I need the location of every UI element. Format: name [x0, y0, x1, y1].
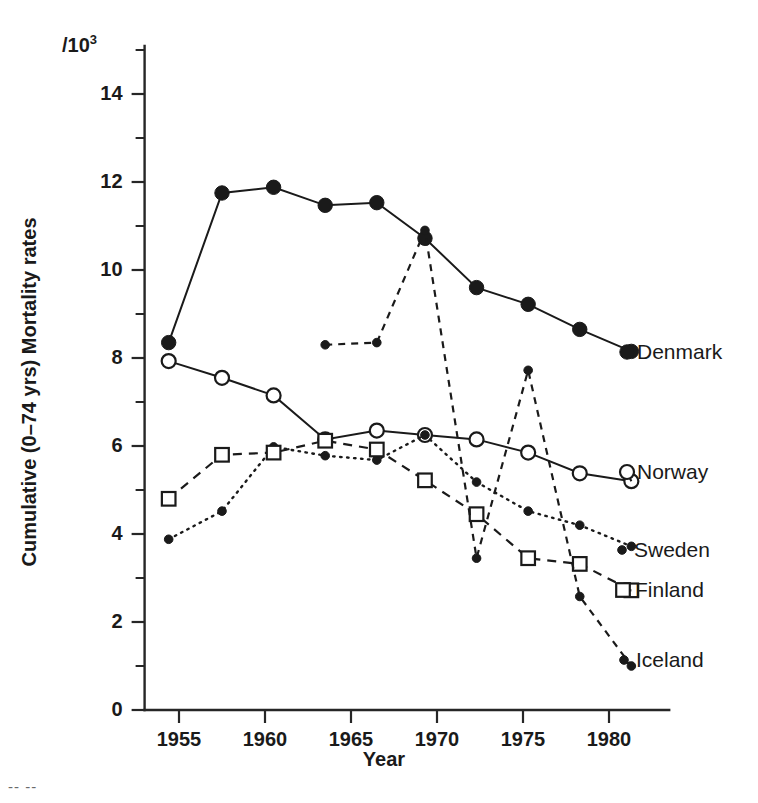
y-tick-label: 12	[100, 170, 122, 192]
legend-marker-finland	[616, 583, 630, 597]
series-line-sweden	[169, 435, 632, 546]
page-artifact-mark: -- --	[8, 778, 37, 795]
legend-text-sweden: Sweden	[634, 538, 710, 561]
legend-marker-iceland	[620, 656, 629, 665]
data-point-finland	[162, 492, 176, 506]
data-point-iceland	[373, 338, 382, 347]
data-point-iceland	[575, 592, 584, 601]
series-finland	[162, 434, 638, 597]
legend-text-iceland: Iceland	[636, 648, 704, 671]
data-point-finland	[573, 557, 587, 571]
x-tick-label: 1960	[243, 728, 288, 750]
unit-exponent: 3	[90, 32, 97, 47]
y-tick-label: 6	[111, 434, 122, 456]
data-point-denmark	[370, 195, 384, 209]
y-tick-label: 10	[100, 258, 122, 280]
x-axis-ticks	[179, 710, 609, 723]
x-tick-label: 1980	[587, 728, 632, 750]
y-tick-label: 0	[111, 698, 122, 720]
legend-marker-denmark	[620, 345, 634, 359]
y-axis-ticks	[132, 50, 145, 710]
series-norway	[162, 354, 639, 488]
mortality-rates-line-chart: 02468101214 195519601965197019751980 Den…	[0, 0, 758, 803]
data-point-iceland	[421, 226, 430, 235]
data-point-finland	[318, 434, 332, 448]
y-tick-label: 14	[100, 82, 123, 104]
series-labels-group: DenmarkNorwaySwedenFinlandIceland	[616, 340, 722, 671]
data-point-denmark	[469, 280, 483, 294]
data-point-iceland	[472, 554, 481, 563]
data-point-denmark	[161, 335, 175, 349]
data-series-group	[161, 180, 638, 670]
data-point-finland	[267, 446, 281, 460]
data-point-norway	[215, 371, 229, 385]
data-point-norway	[267, 388, 281, 402]
legend-text-finland: Finland	[635, 578, 704, 601]
y-tick-label: 2	[111, 610, 122, 632]
series-line-denmark	[169, 187, 632, 351]
series-sweden	[164, 431, 635, 551]
data-point-norway	[370, 424, 384, 438]
data-point-denmark	[215, 186, 229, 200]
y-tick-label: 8	[111, 346, 122, 368]
data-point-sweden	[321, 451, 330, 460]
data-point-denmark	[266, 180, 280, 194]
data-point-sweden	[575, 521, 584, 530]
data-point-finland	[418, 474, 432, 488]
data-point-finland	[370, 443, 384, 457]
data-point-norway	[573, 466, 587, 480]
x-tick-label: 1975	[501, 728, 546, 750]
data-point-sweden	[524, 507, 533, 516]
data-point-denmark	[521, 297, 535, 311]
series-denmark	[161, 180, 638, 359]
x-tick-label: 1955	[157, 728, 202, 750]
chart-figure: 02468101214 195519601965197019751980 Den…	[0, 0, 758, 803]
data-point-iceland	[321, 341, 330, 350]
legend-text-denmark: Denmark	[637, 340, 723, 363]
legend-text-norway: Norway	[637, 460, 709, 483]
legend-marker-sweden	[618, 546, 627, 555]
data-point-sweden	[218, 507, 227, 516]
data-point-sweden	[421, 431, 430, 440]
data-point-norway	[521, 446, 535, 460]
y-axis-tick-labels: 02468101214	[100, 82, 123, 720]
data-point-finland	[470, 507, 484, 521]
legend-marker-norway	[620, 465, 634, 479]
series-label-finland: Finland	[616, 578, 704, 601]
data-point-denmark	[318, 198, 332, 212]
y-axis-unit-label: /103	[62, 32, 97, 56]
data-point-finland	[521, 551, 535, 565]
data-point-sweden	[472, 478, 481, 487]
y-tick-label: 4	[111, 522, 123, 544]
data-point-norway	[162, 354, 176, 368]
series-line-norway	[169, 361, 632, 481]
data-point-denmark	[573, 322, 587, 336]
data-point-iceland	[524, 366, 533, 375]
x-axis-title: Year	[363, 748, 405, 770]
data-point-sweden	[164, 535, 173, 544]
y-axis-title: Cumulative (0–74 yrs) Mortality rates	[18, 217, 40, 566]
data-point-norway	[470, 432, 484, 446]
x-tick-label: 1970	[415, 728, 460, 750]
unit-base: /10	[62, 34, 90, 56]
data-point-finland	[215, 448, 229, 462]
